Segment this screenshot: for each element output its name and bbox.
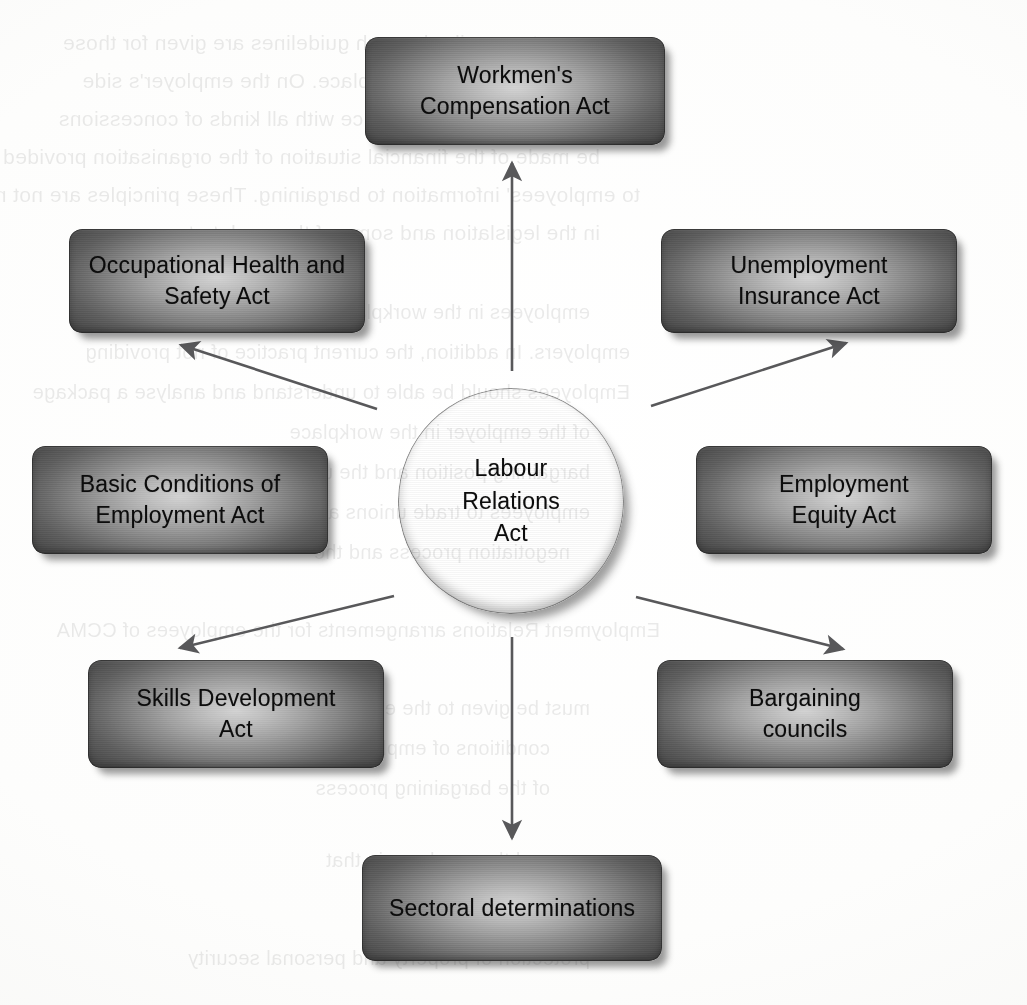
node-label: Basic Conditions ofEmployment Act (66, 469, 295, 530)
node-label: Occupational Health andSafety Act (75, 250, 360, 311)
diagram-canvas: are not prescribed, rough guidelines are… (0, 0, 1027, 1005)
node-basic-conditions-of-employment-act[interactable]: Basic Conditions ofEmployment Act (32, 446, 328, 554)
arrow-to-unemployment-insurance-act (651, 343, 846, 406)
node-label: EmploymentEquity Act (765, 469, 923, 530)
arrow-to-occupational-health-and-safety-act (181, 345, 377, 409)
node-sectoral-determinations[interactable]: Sectoral determinations (362, 855, 662, 961)
node-label: Sectoral determinations (375, 893, 649, 924)
node-workmens-compensation-act[interactable]: Workmen'sCompensation Act (365, 37, 665, 145)
node-label: Skills DevelopmentAct (122, 683, 349, 744)
node-unemployment-insurance-act[interactable]: UnemploymentInsurance Act (661, 229, 957, 333)
ghost-line: to employees' information to bargaining.… (40, 176, 640, 214)
node-label: Bargainingcouncils (735, 683, 875, 744)
ghost-line: of the bargaining process (70, 768, 550, 808)
node-label: Workmen'sCompensation Act (406, 60, 624, 121)
node-skills-development-act[interactable]: Skills DevelopmentAct (88, 660, 384, 768)
node-bargaining-councils[interactable]: Bargainingcouncils (657, 660, 953, 768)
node-occupational-health-and-safety-act[interactable]: Occupational Health andSafety Act (69, 229, 365, 333)
node-employment-equity-act[interactable]: EmploymentEquity Act (696, 446, 992, 554)
ghost-line: employers. In addition, the current prac… (70, 332, 630, 372)
arrow-to-bargaining-councils (636, 597, 843, 649)
ghost-line: Employment Relations arrangements for th… (40, 610, 660, 650)
arrow-to-skills-development-act (180, 596, 394, 648)
node-label: UnemploymentInsurance Act (716, 250, 901, 311)
hub-label: LabourRelationsAct (462, 452, 560, 550)
hub-labour-relations-act[interactable]: LabourRelationsAct (398, 388, 624, 614)
